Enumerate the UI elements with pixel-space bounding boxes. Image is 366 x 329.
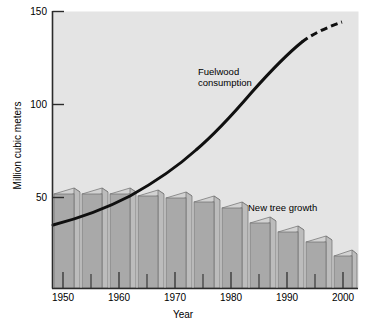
annotation-new-tree-growth: New tree growth [248, 202, 317, 213]
y-axis-title: Million cubic meters [12, 86, 23, 206]
bar-1985 [250, 217, 276, 288]
x-tick-label-2000: 2000 [323, 292, 363, 303]
bar-1980 [222, 202, 248, 288]
x-tick-label-1970: 1970 [155, 292, 195, 303]
bar-1975 [194, 196, 220, 288]
bar-1995 [306, 236, 332, 288]
bar-1990 [278, 226, 304, 288]
bar-1955 [82, 188, 108, 288]
x-tick-label-1990: 1990 [267, 292, 307, 303]
chart-plot-area [0, 0, 366, 329]
y-tick-label-150: 150 [17, 6, 47, 17]
chart-figure: 150 100 50 1950 1960 1970 1980 1990 2000… [0, 0, 366, 329]
x-tick-label-1950: 1950 [43, 292, 83, 303]
x-tick-label-1960: 1960 [99, 292, 139, 303]
bar-1965 [138, 190, 164, 288]
x-tick-label-1980: 1980 [211, 292, 251, 303]
x-axis-title: Year [0, 309, 366, 320]
bar-1970 [166, 192, 192, 288]
bar-2000 [334, 250, 357, 288]
annotation-fuelwood-consumption: Fuelwood consumption [198, 66, 252, 88]
bar-1950 [54, 188, 80, 288]
